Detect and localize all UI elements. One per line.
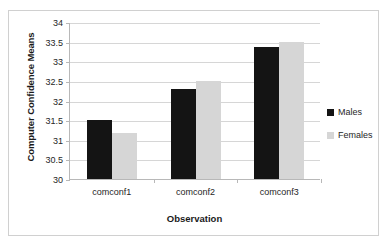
y-tick-label: 33.5 <box>45 38 63 48</box>
legend-label: Females <box>338 130 373 140</box>
x-tick-label-comconf3: comconf3 <box>260 187 299 197</box>
y-tick-mark <box>66 82 70 83</box>
x-axis-title: Observation <box>69 213 320 224</box>
y-tick-mark <box>66 43 70 44</box>
bar-comconf3-females <box>279 42 304 179</box>
y-tick-mark <box>66 141 70 142</box>
legend-entry-males: Males <box>327 107 383 117</box>
legend-label: Males <box>338 107 362 117</box>
y-tick-label: 33 <box>53 57 63 67</box>
y-tick-label: 31.5 <box>45 116 63 126</box>
x-tick-label-comconf1: comconf1 <box>92 187 131 197</box>
y-tick-label: 34 <box>53 18 63 28</box>
x-tick-mark <box>237 179 238 183</box>
x-tick-mark <box>154 179 155 183</box>
y-tick-label: 32 <box>53 97 63 107</box>
y-tick-label: 31 <box>53 136 63 146</box>
bar-comconf3-males <box>254 47 279 179</box>
bar-comconf2-males <box>171 89 196 179</box>
plot-inner: 3030.53131.53232.53333.534 comconf1comco… <box>69 23 320 180</box>
y-tick-mark <box>66 62 70 63</box>
y-tick-label: 30 <box>53 175 63 185</box>
bar-comconf2-females <box>196 81 221 179</box>
bar-comconf1-females <box>112 133 137 179</box>
y-tick-mark <box>66 180 70 181</box>
legend-entry-females: Females <box>327 130 383 140</box>
gridline <box>70 23 320 24</box>
chart-legend: MalesFemales <box>327 107 383 153</box>
x-tick-label-comconf2: comconf2 <box>176 187 215 197</box>
y-tick-mark <box>66 23 70 24</box>
bar-comconf1-males <box>87 120 112 179</box>
y-tick-label: 30.5 <box>45 155 63 165</box>
y-tick-mark <box>66 121 70 122</box>
chart-figure: Computer Confidence Means 3030.53131.532… <box>8 10 379 236</box>
y-tick-mark <box>66 160 70 161</box>
y-axis-title: Computer Confidence Means <box>25 17 39 177</box>
x-tick-mark <box>321 179 322 183</box>
plot-area: 3030.53131.53232.53333.534 comconf1comco… <box>69 23 320 180</box>
legend-swatch-icon <box>327 132 334 139</box>
legend-swatch-icon <box>327 109 334 116</box>
y-tick-label: 32.5 <box>45 77 63 87</box>
y-tick-mark <box>66 102 70 103</box>
